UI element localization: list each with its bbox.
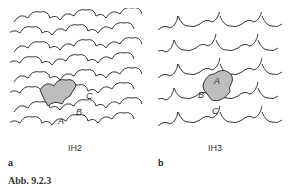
tile-label-b: B [198,90,204,100]
panel-a-tiling: C B A [10,8,145,138]
tile-label-c: C [212,106,219,116]
tile-label-b: B [76,107,82,117]
ih3-tiling-diagram [158,12,283,137]
tile-label-c: C [86,91,93,101]
panel-a-letter: a [8,158,13,168]
figure-caption: Abb. 9.2.3 [8,175,51,186]
ih3-tile-rows [158,12,282,126]
tile-label-a: A [214,76,220,86]
panel-b-tiling: A B C [158,12,283,137]
ih2-shaded-tile [40,80,76,106]
tile-label-a: A [58,116,64,126]
panel-b-title: IH3 [208,143,222,153]
panel-b-letter: b [158,158,164,168]
ih2-tiling-diagram [10,8,145,138]
panel-a-title: IH2 [68,143,82,153]
